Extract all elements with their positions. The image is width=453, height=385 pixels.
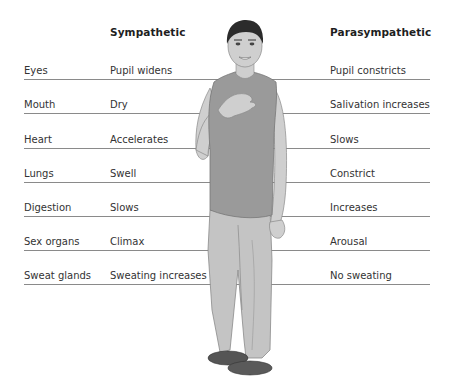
parasympathetic-effect: Salivation increases: [330, 99, 430, 110]
man-illustration: [190, 10, 300, 385]
right-shoe: [228, 361, 272, 375]
organ-label: Sweat glands: [24, 270, 91, 281]
left-eye: [236, 43, 241, 46]
sympathetic-effect: Accelerates: [110, 134, 168, 145]
header-sympathetic: Sympathetic: [110, 26, 186, 38]
sympathetic-effect: Swell: [110, 168, 136, 179]
parasympathetic-effect: Slows: [330, 134, 359, 145]
parasympathetic-effect: Increases: [330, 202, 378, 213]
sympathetic-effect: Dry: [110, 99, 128, 110]
parasympathetic-effect: Constrict: [330, 168, 375, 179]
organ-label: Heart: [24, 134, 52, 145]
organ-label: Lungs: [24, 168, 54, 179]
organ-label: Sex organs: [24, 236, 80, 247]
parasympathetic-effect: Arousal: [330, 236, 367, 247]
sympathetic-effect: Slows: [110, 202, 139, 213]
sympathetic-effect: Climax: [110, 236, 144, 247]
right-hand: [269, 220, 284, 238]
sympathetic-effect: Pupil widens: [110, 65, 172, 76]
organ-label: Eyes: [24, 65, 48, 76]
header-parasympathetic: Parasympathetic: [330, 26, 431, 38]
organ-label: Mouth: [24, 99, 55, 110]
parasympathetic-effect: No sweating: [330, 270, 392, 281]
parasympathetic-effect: Pupil constricts: [330, 65, 406, 76]
trousers: [208, 210, 272, 358]
organ-label: Digestion: [24, 202, 71, 213]
right-eye: [250, 43, 255, 46]
